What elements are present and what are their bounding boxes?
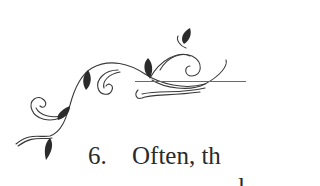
list-item: 6.Often, th bbox=[88, 141, 221, 171]
horizontal-rule bbox=[135, 81, 246, 82]
next-line-fragment: l bbox=[238, 172, 245, 186]
list-number: 6. bbox=[88, 141, 132, 171]
list-item-text: Often, th bbox=[132, 142, 221, 169]
